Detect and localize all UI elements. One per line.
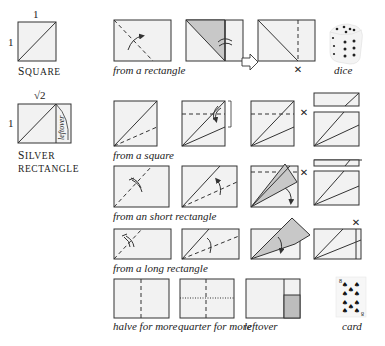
caption-halve-for-more: halve for more xyxy=(113,320,177,332)
caption-from-long-rectangle: from a long rectangle xyxy=(113,262,208,274)
square-reference xyxy=(18,22,56,61)
row4-result xyxy=(314,229,361,259)
row2-step1 xyxy=(114,101,157,146)
row4-step2 xyxy=(182,229,239,259)
leftover-vertical-label: leftover xyxy=(57,115,66,140)
halve-for-more-diagram xyxy=(114,279,169,318)
caption-leftover: leftover xyxy=(244,320,278,332)
row4-step1 xyxy=(114,229,171,259)
cut-mark-icon: ✕ xyxy=(300,167,308,178)
row3-result xyxy=(314,160,359,205)
caption-quarter-for-more: quarter for more xyxy=(178,320,252,332)
caption-from-square: from a square xyxy=(113,149,174,161)
caption-dice: dice xyxy=(334,64,352,76)
silver-rectangle-title: Silverrectangle xyxy=(18,149,79,176)
row2-step2 xyxy=(182,101,231,146)
svg-text:♠: ♠ xyxy=(354,290,360,298)
svg-text:♠: ♠ xyxy=(354,307,360,315)
caption-from-rectangle: from a rectangle xyxy=(113,64,186,76)
cut-mark-icon: ✕ xyxy=(294,64,302,75)
square-title: Square xyxy=(18,65,61,79)
dice-image xyxy=(330,24,362,64)
silver-top-side-label: √2 xyxy=(34,89,46,101)
silver-left-side-label: 1 xyxy=(8,117,14,129)
row1-step1 xyxy=(114,20,171,61)
cut-mark-icon: ✕ xyxy=(300,107,308,118)
leftover-diagram xyxy=(246,279,300,318)
row3-step2 xyxy=(182,166,237,207)
svg-text:♠: ♠ xyxy=(354,299,360,307)
caption-card: card xyxy=(342,320,362,332)
cut-mark-icon: ✕ xyxy=(352,217,360,228)
svg-text:♠: ♠ xyxy=(342,307,348,315)
row1-step3 xyxy=(258,20,315,61)
square-top-side-label: 1 xyxy=(33,8,39,20)
caption-from-short-rectangle: from an short rectangle xyxy=(113,210,216,222)
row2-result xyxy=(314,93,362,160)
card-rank-top: 8 xyxy=(339,278,342,284)
row4-step3 xyxy=(251,218,310,259)
square-left-side-label: 1 xyxy=(8,36,14,48)
row3-step1 xyxy=(114,166,169,207)
row2-step3 xyxy=(251,101,294,146)
row1-arrow xyxy=(242,54,258,70)
svg-text:♠: ♠ xyxy=(354,281,360,289)
origami-diagram: ✕ ✕ ✕ ✕ ♠♠ ♠ ♠♠ ♠♠ ♠ ♠♠ 8 8 leftover 1 1… xyxy=(0,0,385,346)
card-rank-bottom: 8 xyxy=(361,311,364,317)
row1-step2 xyxy=(186,20,243,61)
quarter-for-more-diagram xyxy=(180,279,234,318)
row3-step3 xyxy=(251,164,298,207)
svg-text:♠: ♠ xyxy=(342,290,348,298)
